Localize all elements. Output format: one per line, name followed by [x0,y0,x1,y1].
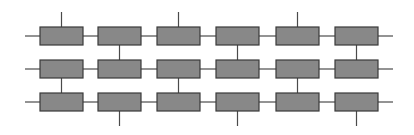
block-grid-diagram [0,0,414,135]
block-r1-c6 [335,27,378,45]
block-r1-c1 [40,27,83,45]
block-r2-c3 [157,60,200,78]
block-r2-c6 [335,60,378,78]
block-r1-c2 [98,27,141,45]
block-r2-c5 [276,60,319,78]
block-r2-c2 [98,60,141,78]
block-r3-c5 [276,93,319,111]
block-r1-c4 [216,27,259,45]
block-r2-c4 [216,60,259,78]
block-r3-c4 [216,93,259,111]
block-r3-c2 [98,93,141,111]
block-r3-c1 [40,93,83,111]
block-r3-c3 [157,93,200,111]
block-r3-c6 [335,93,378,111]
block-r2-c1 [40,60,83,78]
block-r1-c5 [276,27,319,45]
block-r1-c3 [157,27,200,45]
